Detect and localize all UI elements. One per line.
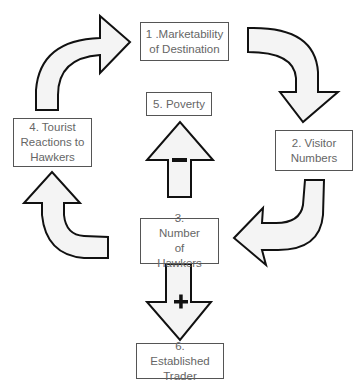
arrow-3-to-4 bbox=[24, 172, 108, 258]
arrow-1-to-2 bbox=[248, 28, 338, 122]
node-visitor-numbers: 2. Visitor Numbers bbox=[275, 130, 353, 171]
node-5-label: 5. Poverty bbox=[153, 97, 205, 112]
arrow-2-to-3 bbox=[234, 180, 324, 265]
node-2-label: 2. Visitor Numbers bbox=[278, 136, 350, 166]
minus-sign-icon bbox=[172, 158, 187, 162]
node-tourist-reactions-to-hawkers: 4. Tourist Reactions to Hawkers bbox=[13, 118, 92, 167]
node-marketability-of-destination: 1 .Marketability of Destination bbox=[140, 22, 229, 61]
node-4-label: 4. Tourist Reactions to Hawkers bbox=[20, 120, 85, 165]
node-number-of-hawkers: 3. Number of Hawkers bbox=[140, 218, 219, 264]
node-established-trader: 6. Established Trader bbox=[136, 343, 224, 379]
node-poverty: 5. Poverty bbox=[146, 92, 212, 116]
node-1-label: 1 .Marketability of Destination bbox=[143, 27, 226, 57]
arrow-4-to-1 bbox=[36, 16, 130, 110]
node-6-label: 6. Established Trader bbox=[145, 339, 215, 384]
node-3-label: 3. Number of Hawkers bbox=[157, 211, 202, 271]
